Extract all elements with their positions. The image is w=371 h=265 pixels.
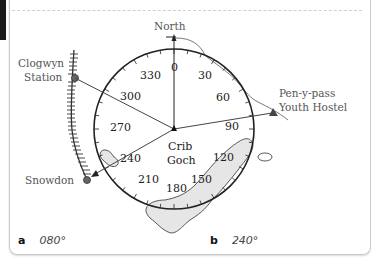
answer-b-value: 240° [232,234,259,247]
bearing-180: 180 [166,182,187,195]
railway-ties [67,54,91,174]
road-path [176,38,288,120]
north-label: North [154,20,186,32]
answer-b: b240° [210,234,258,247]
bearing-120: 120 [213,151,234,164]
answer-b-letter: b [210,234,218,247]
clogwyn-label-line2: Station [24,71,63,83]
clogwyn-label-line1: Clogwyn [18,57,64,69]
bearing-150: 150 [191,173,212,186]
answer-a-letter: a [18,234,25,247]
bearing-30: 30 [198,69,212,82]
snowdon-label: Snowdon [25,174,74,186]
penypass-label-line1: Pen-y-pass [279,87,335,99]
snowdon-marker [84,177,91,184]
lake-shape-east [258,153,272,161]
bearing-270: 270 [110,121,131,134]
bearing-0: 0 [171,61,178,74]
bearing-210: 210 [138,173,159,186]
bearing-60: 60 [216,91,230,104]
bearing-line-penypass [174,113,272,129]
bearing-330: 330 [140,69,161,82]
center-label-line1: Crib [168,140,192,153]
penypass-label-line2: Youth Hostel [278,101,348,113]
answer-a: a080° [18,234,66,247]
center-label-line2: Goch [167,154,196,167]
answer-a-value: 080° [39,234,66,247]
bearing-90: 90 [225,120,239,133]
railway-line [71,50,87,180]
snowdon-arrowhead [91,170,99,177]
bearing-300: 300 [120,90,141,103]
bearing-240: 240 [120,152,141,165]
